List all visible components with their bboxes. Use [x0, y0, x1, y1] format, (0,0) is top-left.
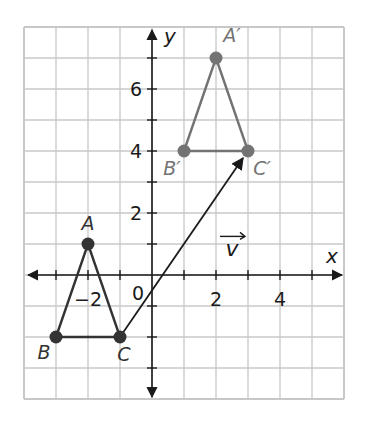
y-axis-label: y	[163, 24, 177, 48]
vector-label: v	[225, 236, 239, 261]
origin-label: 0	[132, 282, 144, 304]
vertex-label: B′	[163, 157, 181, 179]
translation-vector: v	[120, 158, 245, 337]
vertex-label: C	[117, 343, 131, 365]
tick-labels: yx−2242460	[74, 24, 338, 310]
vertex-point	[114, 331, 127, 344]
coordinate-plane: yx−2242460 v ABC A′B′C′	[0, 0, 365, 423]
vertex-point	[242, 145, 255, 158]
grid	[24, 27, 344, 399]
x-tick-label: 2	[210, 288, 222, 310]
vertex-point	[50, 331, 63, 344]
triangle-a-prime-b-prime-c-prime: A′B′C′	[163, 24, 271, 179]
vertex-point	[82, 238, 95, 251]
x-tick-label: −2	[74, 288, 102, 310]
vertex-label: A	[80, 212, 95, 234]
y-tick-label: 4	[130, 140, 142, 162]
vertex-point	[210, 52, 223, 65]
y-tick-label: 2	[130, 202, 142, 224]
x-axis-label: x	[325, 244, 338, 268]
vertex-point	[178, 145, 191, 158]
vertex-label: A′	[221, 24, 241, 46]
y-tick-label: 6	[130, 78, 142, 100]
x-tick-label: 4	[274, 288, 286, 310]
vertex-label: C′	[253, 157, 271, 179]
vertex-label: B	[37, 341, 50, 363]
